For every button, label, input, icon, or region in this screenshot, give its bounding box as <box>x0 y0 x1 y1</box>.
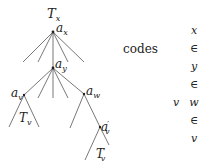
label-a-x: ax <box>56 22 68 39</box>
tree-edges <box>0 0 203 165</box>
codes-item-w: w <box>188 96 200 109</box>
codes-item-in-2: ∈ <box>188 78 200 91</box>
codes-item-in-3: ∈ <box>188 114 200 127</box>
codes-side-v: v <box>170 96 182 109</box>
label-t-v: Tv <box>19 112 32 129</box>
codes-item-y: y <box>188 60 200 73</box>
codes-label: codes <box>123 42 158 56</box>
codes-item-in-1: ∈ <box>188 42 200 55</box>
codes-item-v: v <box>188 132 200 145</box>
label-a-v-prime: a′v <box>101 118 110 138</box>
label-a-y: ay <box>55 58 67 75</box>
label-a-w: aw <box>86 85 100 102</box>
label-t-v-prime: T′v <box>96 145 105 165</box>
codes-item-x: x <box>188 24 200 37</box>
label-a-v: av <box>11 87 23 104</box>
